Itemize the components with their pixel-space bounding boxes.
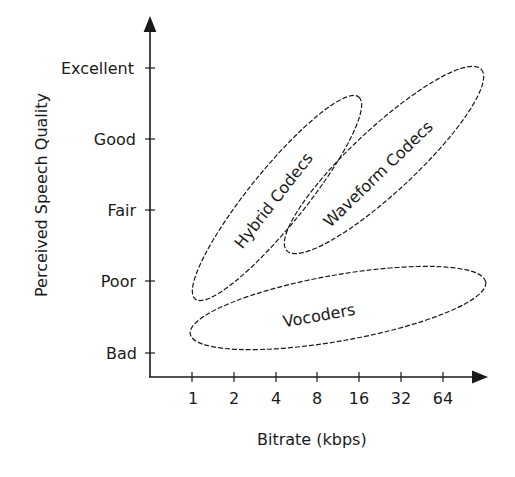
y-tick-poor: Poor (101, 272, 137, 291)
y-tick-good: Good (94, 130, 136, 149)
x-tick-4: 4 (271, 389, 281, 408)
x-tick-1: 1 (188, 389, 198, 408)
vocoders-label: Vocoders (281, 300, 356, 331)
y-tick-excellent: Excellent (61, 59, 134, 78)
x-tick-16: 16 (349, 389, 369, 408)
y-tick-bad: Bad (106, 344, 137, 363)
y-axis-title: Perceived Speech Quality (32, 93, 51, 297)
waveform-codecs-label: Waveform Codecs (320, 117, 437, 231)
x-tick-2: 2 (229, 389, 239, 408)
y-tick-fair: Fair (107, 201, 136, 220)
codec-quality-diagram: Excellent Good Fair Poor Bad 1 2 4 8 16 … (0, 0, 515, 477)
x-axis-title: Bitrate (kbps) (257, 430, 367, 449)
x-tick-8: 8 (312, 389, 322, 408)
x-tick-32: 32 (391, 389, 411, 408)
x-tick-64: 64 (433, 389, 453, 408)
